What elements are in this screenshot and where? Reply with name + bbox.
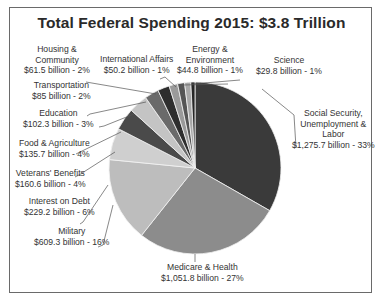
label-energy: Energy & Environment $44.8 billion - 1% [177, 44, 243, 76]
pie-slices [109, 82, 281, 254]
label-medicare: Medicare & Health $1,051.8 billion - 27% [161, 262, 244, 283]
label-education: Education $102.3 billion - 3% [23, 108, 94, 129]
label-social-security: Social Security, Unemployment & Labor $1… [292, 108, 375, 150]
label-international: International Affairs $50.2 billion - 1% [100, 54, 173, 75]
label-transportation: Transportation $85 billion - 2% [32, 80, 91, 101]
label-military: Military $609.3 billion - 16% [34, 226, 110, 247]
label-housing: Housing & Community $61.5 billion - 2% [24, 44, 90, 76]
label-science: Science $29.8 billion - 1% [256, 55, 322, 76]
label-veterans: Veterans' Benefits $160.6 billion - 4% [15, 168, 86, 189]
label-interest: Interest on Debt $229.2 billion - 6% [24, 196, 95, 217]
label-food: Food & Agriculture $135.7 billion - 4% [19, 138, 90, 159]
